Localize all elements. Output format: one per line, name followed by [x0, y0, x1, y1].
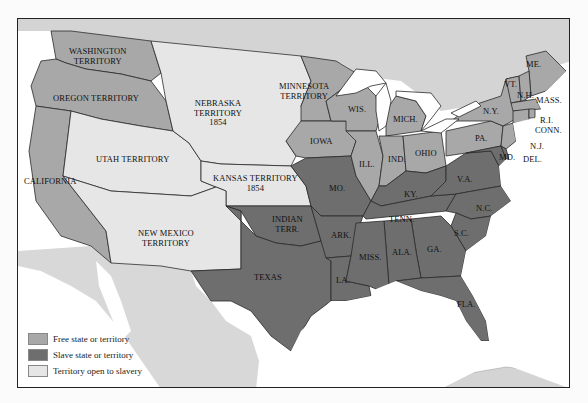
- label-mass: MASS.: [536, 96, 562, 106]
- label-washington: WASHINGTONTERRITORY: [69, 47, 127, 66]
- label-sc: S.C.: [454, 229, 469, 239]
- label-kansas: KANSAS TERRITORY1854: [213, 174, 298, 193]
- label-ohio: OHIO: [415, 149, 437, 159]
- legend-label: Slave state or territory: [53, 350, 133, 360]
- label-ky: KY.: [404, 190, 418, 200]
- label-line: NEBRASKA: [195, 98, 242, 108]
- label-utah: UTAH TERRITORY: [96, 155, 169, 165]
- legend-item-free: Free state or territory: [28, 331, 142, 347]
- map-legend: Free state or territory Slave state or t…: [28, 331, 142, 379]
- label-line: MINNESOTA: [279, 81, 329, 91]
- label-vt: VT.: [504, 80, 517, 90]
- legend-swatch-free: [28, 333, 48, 345]
- legend-label: Territory open to slavery: [53, 366, 142, 376]
- label-mo: MO.: [329, 184, 345, 194]
- label-line: KANSAS TERRITORY: [213, 173, 298, 183]
- label-new-mexico: NEW MEXICOTERRITORY: [138, 229, 194, 248]
- label-oregon: OREGON TERRITORY: [53, 94, 139, 104]
- label-line: TERRITORY: [142, 238, 190, 248]
- label-ill: ILL.: [359, 160, 375, 170]
- label-nh: N.H.: [517, 91, 534, 101]
- legend-item-slave: Slave state or territory: [28, 347, 142, 363]
- label-line: NEW MEXICO: [138, 228, 194, 238]
- legend-swatch-open: [28, 365, 48, 377]
- label-line: 1854: [247, 183, 264, 193]
- label-ny: N.Y.: [483, 107, 499, 117]
- label-miss: MISS.: [359, 253, 381, 263]
- label-va: V.A.: [457, 175, 473, 185]
- label-ind: IND.: [388, 155, 406, 165]
- label-texas: TEXAS: [254, 273, 282, 283]
- label-ala: ALA.: [392, 248, 412, 258]
- map-frame: WASHINGTONTERRITORY OREGON TERRITORY NEB…: [17, 18, 570, 388]
- label-tenn: TENN.: [389, 215, 414, 225]
- label-wis: WIS.: [348, 105, 366, 115]
- rhode-island: [529, 109, 535, 118]
- label-conn: CONN.: [535, 126, 562, 136]
- label-fla: FLA.: [457, 300, 476, 310]
- label-line: WASHINGTON: [69, 46, 127, 56]
- label-nj: N.J.: [530, 142, 544, 152]
- label-line: 1854: [209, 117, 226, 127]
- label-md: MD.: [499, 153, 515, 163]
- label-del: DEL.: [523, 155, 542, 165]
- legend-label: Free state or territory: [53, 334, 129, 344]
- label-iowa: IOWA: [310, 137, 333, 147]
- label-line: INDIAN: [272, 214, 303, 224]
- label-minnesota: MINNESOTATERRITORY: [279, 82, 329, 101]
- label-mich: MICH.: [393, 115, 418, 125]
- label-indian-terr: INDIANTERR.: [272, 215, 303, 234]
- label-ark: ARK.: [331, 231, 351, 241]
- label-me: ME.: [526, 60, 541, 70]
- label-la: LA.: [336, 276, 350, 286]
- label-nc: N.C.: [476, 204, 492, 214]
- label-nebraska: NEBRASKATERRITORY1854: [194, 99, 242, 128]
- label-california: CALIFORNIA: [24, 177, 76, 187]
- label-line: TERRITORY: [194, 108, 242, 118]
- label-line: TERRITORY: [74, 56, 122, 66]
- label-line: TERRITORY: [280, 91, 328, 101]
- label-pa: PA.: [475, 134, 488, 144]
- label-line: TERR.: [275, 224, 299, 234]
- legend-item-open: Territory open to slavery: [28, 363, 142, 379]
- legend-swatch-slave: [28, 349, 48, 361]
- label-ga: GA.: [427, 245, 442, 255]
